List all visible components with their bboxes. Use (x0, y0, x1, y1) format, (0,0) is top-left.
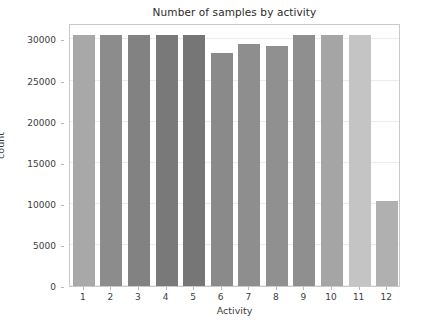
x-tick-mark (303, 287, 304, 290)
x-tick-mark (248, 287, 249, 290)
y-tick-label: 15000 (27, 159, 56, 169)
x-axis-ticks: 123456789101112 (69, 287, 400, 305)
y-tick-label: 30000 (27, 35, 56, 45)
x-tick-mark (276, 287, 277, 290)
x-axis-label: Activity (69, 305, 400, 316)
plot-area (69, 24, 400, 287)
bar (183, 35, 205, 286)
y-tick-mark (61, 164, 64, 165)
y-tick-mark (61, 287, 64, 288)
x-tick-label: 11 (353, 292, 364, 302)
x-tick-label: 2 (108, 292, 114, 302)
y-axis-ticks: 050001000015000200002500030000 (0, 24, 64, 287)
bar-series (70, 25, 399, 286)
y-tick-label: 0 (50, 282, 56, 292)
y-tick-label: 25000 (27, 77, 56, 87)
y-axis-label: count (0, 132, 6, 159)
x-tick-mark (110, 287, 111, 290)
bar (266, 46, 288, 286)
y-tick-mark (61, 40, 64, 41)
y-tick-mark (61, 205, 64, 206)
bar (211, 53, 233, 286)
x-tick-mark (193, 287, 194, 290)
x-tick-label: 6 (218, 292, 224, 302)
x-tick-mark (83, 287, 84, 290)
x-tick-label: 12 (380, 292, 391, 302)
bar-chart-figure: Number of samples by activity 0500010000… (0, 0, 427, 333)
x-tick-label: 8 (273, 292, 279, 302)
bar (156, 35, 178, 286)
x-tick-mark (138, 287, 139, 290)
x-tick-mark (166, 287, 167, 290)
y-tick-mark (61, 82, 64, 83)
bar (100, 35, 122, 286)
bar (321, 35, 343, 286)
bar (349, 35, 371, 286)
x-tick-mark (359, 287, 360, 290)
y-tick-mark (61, 123, 64, 124)
x-tick-mark (221, 287, 222, 290)
chart-title: Number of samples by activity (69, 6, 400, 18)
y-tick-label: 20000 (27, 118, 56, 128)
bar (238, 44, 260, 286)
bar (293, 35, 315, 286)
x-tick-label: 4 (163, 292, 169, 302)
y-tick-mark (61, 246, 64, 247)
x-tick-label: 1 (80, 292, 86, 302)
y-tick-label: 10000 (27, 200, 56, 210)
x-tick-label: 5 (190, 292, 196, 302)
y-tick-label: 5000 (33, 241, 56, 251)
x-tick-label: 9 (301, 292, 307, 302)
x-tick-mark (331, 287, 332, 290)
x-tick-label: 3 (135, 292, 141, 302)
x-tick-label: 7 (245, 292, 251, 302)
bar (128, 35, 150, 286)
bar (73, 35, 95, 286)
x-tick-label: 10 (325, 292, 336, 302)
bar (376, 201, 398, 286)
x-tick-mark (386, 287, 387, 290)
